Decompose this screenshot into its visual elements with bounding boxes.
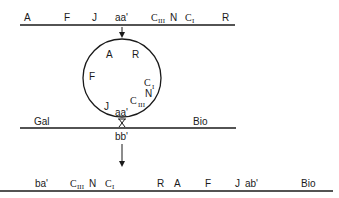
gene-label-j: J [92, 12, 97, 23]
crossover-icon [118, 119, 126, 127]
gene-label-gal: Gal [34, 116, 50, 127]
gene-label-n: N [145, 88, 152, 99]
gene-label-r: R [132, 49, 139, 60]
gene-label-c: C [185, 12, 192, 23]
gene-label-bio: Bio [193, 116, 208, 127]
circular-phage-dna: A R F C I N C III J aa' [83, 39, 161, 118]
gene-label-j: J [235, 178, 240, 189]
gene-label-c: C [151, 12, 158, 23]
gene-label-r: R [157, 178, 164, 189]
gene-label-f: F [205, 178, 211, 189]
gene-subscript-i: I [152, 83, 155, 91]
linear-phage-dna: A F J aa' C III N C I R [20, 12, 235, 25]
gene-subscript-i: I [112, 183, 115, 191]
gene-label-c: C [144, 77, 151, 88]
gene-label-r: R [222, 12, 229, 23]
gene-label-c: C [130, 95, 137, 106]
gene-label-j: J [104, 101, 109, 112]
site-label-ba: ba' [35, 178, 48, 189]
integrated-prophage: ba' C III N C I R A F J ab' Bio [0, 178, 333, 191]
gene-subscript-iii: III [77, 183, 85, 191]
gene-label-a: A [106, 49, 113, 60]
gene-subscript-iii: III [158, 17, 166, 25]
site-label-aa: aa' [115, 107, 128, 118]
gene-subscript-i: I [192, 17, 195, 25]
gene-label-n: N [170, 12, 177, 23]
gene-label-n: N [89, 178, 96, 189]
gene-label-c: C [105, 178, 112, 189]
bacterial-chromosome: Gal Bio bb' [20, 116, 236, 142]
gene-label-bio: Bio [301, 178, 316, 189]
gene-label-c: C [70, 178, 77, 189]
site-label-bb: bb' [115, 131, 128, 142]
gene-label-f: F [64, 12, 70, 23]
gene-label-f: F [89, 71, 95, 82]
gene-subscript-iii: III [138, 101, 146, 109]
gene-label-a: A [24, 12, 31, 23]
gene-label-a: A [174, 178, 181, 189]
integration-diagram: A F J aa' C III N C I R A R F C I N C II… [0, 0, 339, 198]
site-label-ab: ab' [245, 178, 258, 189]
site-label-aa: aa' [115, 12, 128, 23]
